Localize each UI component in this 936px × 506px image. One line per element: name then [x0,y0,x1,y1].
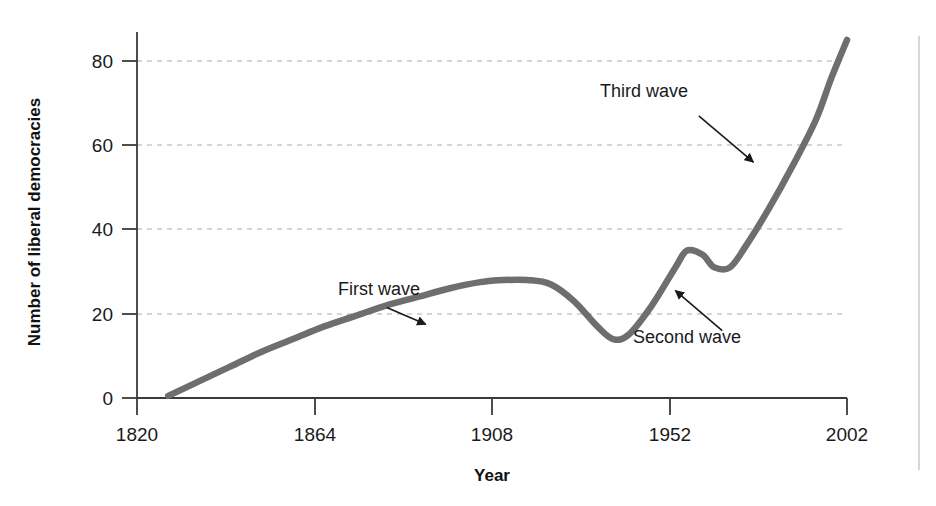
y-tick-label-80: 80 [92,51,113,72]
y-tick-label-60: 60 [92,135,113,156]
y-tick-label-40: 40 [92,219,113,240]
y-tick-label-20: 20 [92,304,113,325]
democracy-waves-chart: 80 60 40 20 0 1820 1864 1908 1952 2002 Y… [0,0,936,506]
x-tick-label-1864: 1864 [294,424,337,445]
annotation-label-first-wave: First wave [338,279,420,299]
x-tick-label-2002: 2002 [826,424,868,445]
x-tick-label-1820: 1820 [116,424,158,445]
y-tick-label-0: 0 [102,388,113,409]
x-axis-title: Year [474,466,510,485]
x-tick-label-1952: 1952 [649,424,691,445]
y-axis-title: Number of liberal democracies [25,98,44,346]
annotation-label-second-wave: Second wave [633,327,741,347]
figure-root: 80 60 40 20 0 1820 1864 1908 1952 2002 Y… [0,0,936,506]
annotation-label-third-wave: Third wave [600,81,688,101]
x-tick-label-1908: 1908 [471,424,513,445]
